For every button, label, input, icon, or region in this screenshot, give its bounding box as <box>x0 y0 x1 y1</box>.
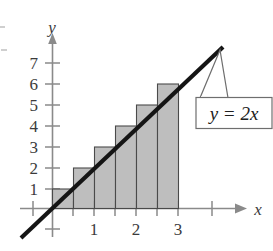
scan-artifact-2 <box>1 49 7 51</box>
bar-rect <box>158 84 179 209</box>
x-axis-label: x <box>253 200 262 219</box>
y-tick-label: 6 <box>30 75 39 94</box>
y-axis-label: y <box>46 18 56 37</box>
x-tick-label: 2 <box>132 220 141 239</box>
y-tick-label: 7 <box>30 54 39 73</box>
y-tick-label-group: 7 6 5 4 3 2 1 <box>30 54 39 199</box>
y-tick-label: 1 <box>30 180 39 199</box>
x-axis-arrow-icon <box>235 204 247 214</box>
riemann-sum-figure: 7 6 5 4 3 2 1 1 2 3 y x y = 2x <box>0 0 273 251</box>
y-tick-label: 5 <box>30 96 39 115</box>
scan-artifact <box>0 26 5 28</box>
x-tick-label: 1 <box>90 220 99 239</box>
x-tick-label-group: 1 2 3 <box>90 220 183 239</box>
y-tick-label: 4 <box>30 117 39 136</box>
riemann-sum-chart: 7 6 5 4 3 2 1 1 2 3 y x y = 2x <box>0 0 273 251</box>
x-tick-label: 3 <box>174 220 183 239</box>
function-line-y-equals-2x <box>21 47 223 238</box>
y-tick-label: 2 <box>30 159 39 178</box>
equation-label: y = 2x <box>208 103 259 124</box>
y-tick-label: 3 <box>30 138 39 157</box>
